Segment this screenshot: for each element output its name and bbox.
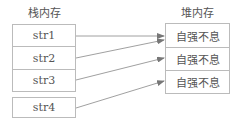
- arrow-str3: [76, 58, 164, 80]
- arrows-layer: [0, 0, 235, 128]
- arrow-str2: [76, 40, 164, 58]
- arrow-str4: [76, 81, 164, 108]
